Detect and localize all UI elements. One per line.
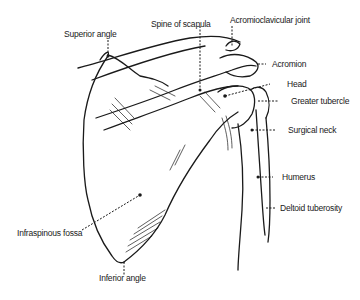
spine-of-scapula	[96, 65, 256, 118]
clavicle-outline	[78, 36, 240, 68]
label-inferior-angle: Inferior angle	[99, 274, 146, 283]
scapula-humerus-illustration	[0, 0, 360, 300]
label-deltoid-tuberosity: Deltoid tuberosity	[280, 204, 342, 213]
label-infraspinous-fossa: Infraspinous fossa	[17, 229, 82, 238]
label-humerus: Humerus	[282, 173, 315, 182]
label-acromioclavicular-joint: Acromioclavicular joint	[230, 16, 310, 25]
humerus-shaft-medial	[238, 124, 243, 270]
label-greater-tubercle: Greater tubercle	[291, 97, 349, 106]
label-spine-of-scapula: Spine of scapula	[151, 20, 211, 29]
label-superior-angle: Superior angle	[64, 30, 117, 39]
label-head: Head	[287, 80, 307, 89]
label-surgical-neck: Surgical neck	[288, 126, 336, 135]
scapula-medial-border	[83, 56, 124, 263]
label-acromion: Acromion	[272, 60, 306, 69]
humerus-shaft-lateral	[266, 118, 270, 242]
scapula-lateral-border	[124, 112, 238, 262]
